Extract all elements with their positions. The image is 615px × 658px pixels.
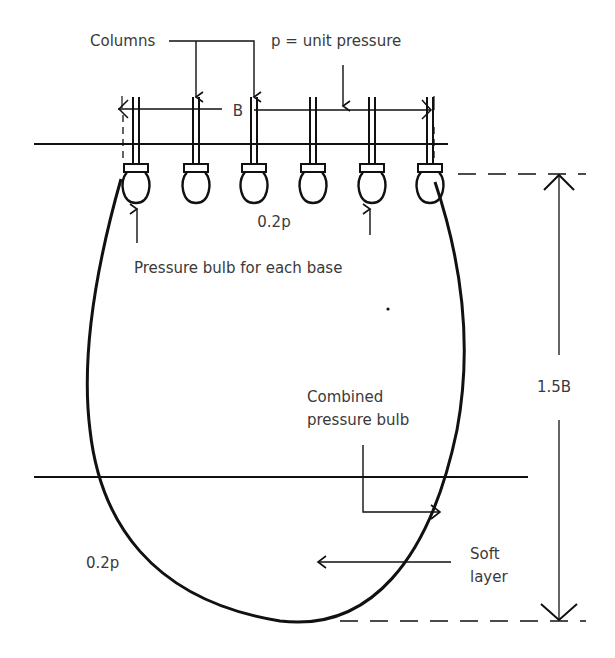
soft-layer-label-line1: Soft: [470, 545, 500, 563]
depth-label: 1.5B: [537, 378, 571, 396]
bulb-pressure-top-label: 0.2p: [257, 213, 290, 231]
combined-pressure-bulb-outline: [87, 179, 464, 622]
combined-label-arrow: [363, 445, 440, 512]
footing-cap: [184, 164, 208, 172]
column-3: [241, 97, 268, 203]
column-5: [359, 97, 386, 203]
individual-pressure-bulb: [300, 172, 327, 203]
pressure-bulb-diagram: B Columns p = unit pressure 0.2p Pressur…: [0, 0, 615, 658]
unit-pressure-callout: p = unit pressure: [271, 32, 401, 106]
individual-pressure-bulb: [241, 172, 268, 203]
combined-label-line2: pressure bulb: [307, 411, 409, 429]
bulb-pressure-bottom-label: 0.2p: [86, 554, 119, 572]
individual-pressure-bulb: [183, 172, 210, 203]
footing-cap: [418, 164, 442, 172]
column-4: [300, 97, 327, 203]
stray-dot: [386, 307, 389, 310]
footing-cap: [242, 164, 266, 172]
width-label: B: [233, 102, 243, 120]
footing-cap: [124, 164, 148, 172]
width-dimension: B: [118, 96, 434, 160]
column-1: [123, 97, 150, 203]
footing-cap: [360, 164, 384, 172]
soft-layer-label-line2: layer: [470, 568, 508, 586]
unit-pressure-label: p = unit pressure: [271, 32, 401, 50]
individual-pressure-bulb: [359, 172, 386, 203]
column-6: [417, 97, 444, 203]
footing-cap: [301, 164, 325, 172]
combined-label-line1: Combined: [307, 388, 383, 406]
individual-pressure-bulb: [123, 172, 150, 203]
column-group: [123, 97, 444, 203]
each-base-label: Pressure bulb for each base: [134, 259, 342, 277]
column-2: [183, 97, 210, 203]
columns-callout: Columns: [90, 32, 254, 97]
columns-label: Columns: [90, 32, 155, 50]
